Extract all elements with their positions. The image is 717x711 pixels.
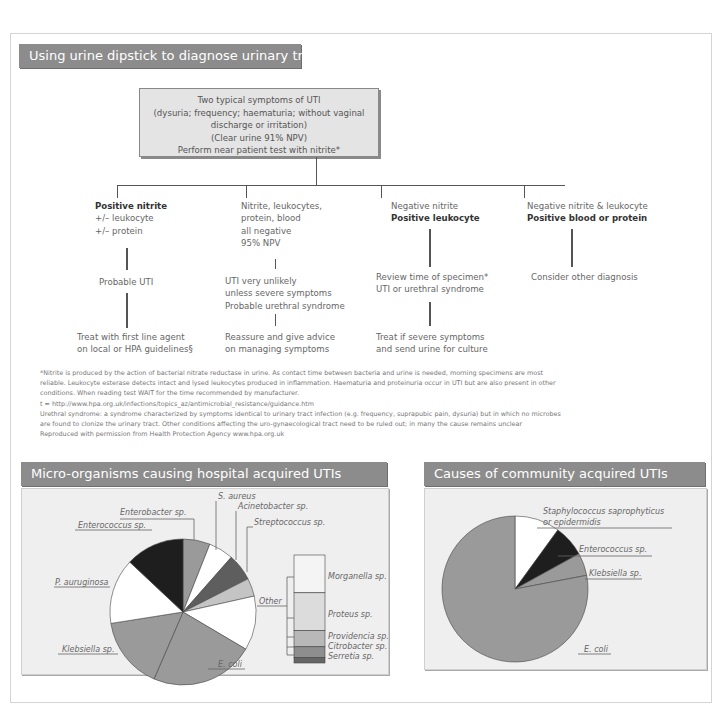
- stack-segment-proteus-sp: [294, 593, 325, 631]
- label-staph-line2: or epidermidis: [543, 518, 601, 528]
- label-acinetobacter: Acinetobacter sp.: [238, 502, 308, 512]
- label-e-coli: E. coli: [218, 660, 242, 670]
- label-p-aeruginosa: P. auruginosa: [55, 578, 108, 588]
- label-enterococcus: Enterococcus sp.: [78, 521, 146, 531]
- stack-segment-citrobacter-sp: [294, 647, 325, 658]
- label-s-aureus: S. aureus: [218, 492, 256, 502]
- label-enterobacter: Enterobacter sp.: [120, 508, 186, 518]
- label-staph-line1: Staphylococcus saprophyticus: [543, 507, 664, 517]
- other-breakdown-bar: [294, 555, 325, 663]
- label-community-klebsiella: Klebsiella sp.: [589, 569, 641, 579]
- pie-charts-layer: [0, 0, 717, 711]
- label-streptococcus: Streptococcus sp.: [254, 518, 325, 528]
- label-community-e-coli: E. coli: [584, 645, 608, 655]
- label-citrobacter: Citrobacter sp.: [328, 642, 387, 652]
- label-proteus: Proteus sp.: [328, 610, 373, 620]
- label-providencia: Providencia sp.: [328, 632, 389, 642]
- label-serretia: Serretia sp.: [328, 652, 374, 662]
- stack-segment-serretia-sp: [294, 658, 325, 663]
- label-klebsiella: Klebsiella sp.: [62, 645, 114, 655]
- community-pie-chart: [442, 516, 588, 662]
- stack-segment-morganella-sp: [294, 555, 325, 593]
- label-morganella: Morganella sp.: [328, 572, 387, 582]
- label-other: Other: [259, 597, 282, 607]
- label-community-enterococcus: Enterococcus sp.: [579, 545, 647, 555]
- stack-segment-providencia-sp: [294, 631, 325, 647]
